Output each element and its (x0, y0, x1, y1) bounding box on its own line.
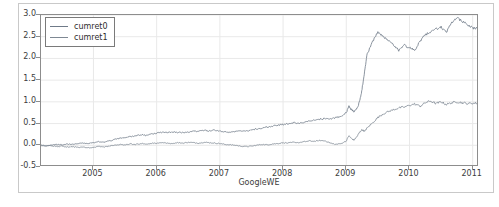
x-axis-tick-label: 2007 (209, 170, 229, 178)
legend-item-cumret0: cumret0 (50, 21, 108, 32)
x-axis-tick-mark (156, 166, 157, 170)
legend-label-1: cumret1 (74, 34, 108, 42)
chart-legend: cumret0 cumret1 (45, 17, 115, 47)
legend-item-cumret1: cumret1 (50, 32, 108, 43)
x-axis-tick-label: 2008 (272, 170, 292, 178)
x-axis-title: GoogleWE (238, 178, 279, 187)
x-axis-tick-label: 2011 (461, 170, 481, 178)
x-axis-tick-mark (219, 166, 220, 170)
legend-label-0: cumret0 (74, 23, 108, 31)
x-axis-tick-mark (472, 166, 473, 170)
x-axis-tick-label: 2005 (82, 170, 102, 178)
x-axis-tick-mark (408, 166, 409, 170)
x-axis-tick-mark (345, 166, 346, 170)
chart-figure: -0.50.00.51.01.52.02.53.0 20052006200720… (0, 0, 499, 207)
legend-line-swatch-0 (50, 26, 68, 27)
x-axis-tick-mark (282, 166, 283, 170)
legend-line-swatch-1 (50, 37, 68, 38)
x-axis-tick-label: 2006 (145, 170, 165, 178)
x-axis-tick-label: 2009 (335, 170, 355, 178)
x-axis-tick-label: 2010 (398, 170, 418, 178)
x-axis-tick-mark (92, 166, 93, 170)
